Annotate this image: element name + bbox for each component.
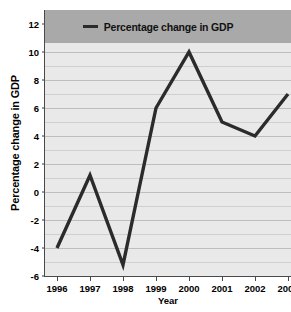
x-tick-mark [189, 277, 190, 281]
legend-line-swatch-icon [83, 25, 98, 28]
y-tick-label: -2 [31, 215, 39, 226]
x-tick-label: 2000 [178, 283, 199, 294]
legend-label: Percentage change in GDP [104, 21, 233, 33]
y-tick-label: 12 [28, 19, 39, 30]
y-tick-label: 10 [28, 47, 39, 58]
x-tick-label: 2002 [244, 283, 265, 294]
legend-entry: Percentage change in GDP [83, 21, 253, 33]
x-tick-mark [222, 277, 223, 281]
x-tick-label: 1999 [145, 283, 166, 294]
x-tick-mark [123, 277, 124, 281]
gdp-line-chart: Percentage change in GDP 121086420-2-4-6… [0, 0, 291, 312]
x-axis-tick-labels: 19961997199819992000200120022003 [45, 277, 291, 297]
plot-area: Percentage change in GDP [45, 10, 291, 276]
x-tick-label: 2003 [277, 283, 291, 294]
x-tick-label: 1997 [79, 283, 100, 294]
legend-band: Percentage change in GDP [45, 10, 291, 43]
x-tick-mark [255, 277, 256, 281]
y-tick-label: 2 [34, 159, 39, 170]
x-tick-label: 2001 [211, 283, 232, 294]
x-tick-mark [57, 277, 58, 281]
x-axis-title: Year [45, 295, 291, 306]
x-tick-mark [90, 277, 91, 281]
x-tick-label: 1996 [46, 283, 67, 294]
data-series-layer [45, 10, 291, 276]
y-axis-title-text: Percentage change in GDP [9, 75, 21, 211]
x-tick-mark [156, 277, 157, 281]
x-tick-label: 1998 [112, 283, 133, 294]
y-tick-label: 8 [34, 75, 39, 86]
y-tick-label: -6 [31, 271, 39, 282]
series-line-percentage-change-in-gdp [57, 52, 288, 265]
y-tick-label: 6 [34, 103, 39, 114]
y-axis-tick-labels: 121086420-2-4-6 [24, 0, 45, 312]
y-tick-label: -4 [31, 243, 39, 254]
y-tick-label: 4 [34, 131, 39, 142]
x-tick-mark [288, 277, 289, 281]
y-tick-label: 0 [34, 187, 39, 198]
